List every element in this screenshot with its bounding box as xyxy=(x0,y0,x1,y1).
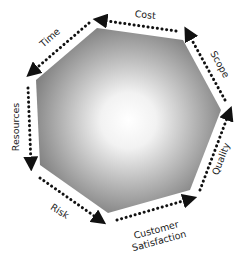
heptagon-shape xyxy=(36,28,221,213)
label-time: Time xyxy=(37,25,63,49)
label-cost: Cost xyxy=(134,8,156,21)
resources-arrow xyxy=(28,88,31,164)
label-resources: Resources xyxy=(10,103,21,152)
project-constraints-diagram: Cost Time Resources Risk Customer Satisf… xyxy=(0,0,245,253)
label-risk: Risk xyxy=(49,201,72,221)
cost-arrow xyxy=(100,20,176,31)
